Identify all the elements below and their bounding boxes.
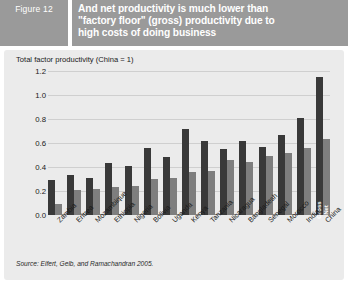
bar-group: [297, 71, 311, 215]
x-label-slot: Bangladesh: [239, 216, 253, 268]
bar-group: [182, 71, 196, 215]
bar-group: [239, 71, 253, 215]
bar-group: [201, 71, 215, 215]
bar-gross: Gross: [316, 77, 323, 215]
bar-net: Net: [323, 139, 330, 215]
figure-title-line-2: "factory floor" (gross) productivity due…: [78, 15, 342, 27]
y-axis-tick-labels: 0.00.20.40.60.81.01.2: [22, 71, 46, 215]
bar-group: [278, 71, 292, 215]
x-label-slot: Tanzania: [201, 216, 215, 268]
y-axis-tick-label: 1.0: [35, 91, 46, 100]
bar-group: [144, 71, 158, 215]
figure-title-box: And net productivity is much lower than …: [72, 0, 348, 46]
bar-group: [67, 71, 81, 215]
chart-panel: Total factor productivity (China = 1) 0.…: [4, 50, 344, 280]
bar-group: GrossNet: [316, 71, 330, 215]
y-axis-tick-label: 0.2: [35, 187, 46, 196]
x-label-slot: Kenya: [182, 216, 196, 268]
figure-number-box: Figure 12: [0, 0, 68, 46]
figure-header: Figure 12 And net productivity is much l…: [0, 0, 348, 46]
figure-container: Figure 12 And net productivity is much l…: [0, 0, 348, 284]
x-label-slot: Uganda: [163, 216, 177, 268]
x-label-slot: India: [297, 216, 311, 268]
y-axis-tick-label: 0.0: [35, 211, 46, 220]
source-note: Source: Eifert, Gelb, and Ramachandran 2…: [16, 260, 153, 267]
plot-area: GrossNet: [48, 71, 330, 215]
figure-number-label: Figure 12: [15, 4, 53, 14]
y-axis-tick-label: 0.8: [35, 115, 46, 124]
y-axis-tick-label: 1.2: [35, 67, 46, 76]
x-label-slot: Nicaragua: [220, 216, 234, 268]
x-label-slot: Morocco: [278, 216, 292, 268]
x-label-slot: Senegal: [259, 216, 273, 268]
bar-group: [48, 71, 62, 215]
y-axis-tick-label: 0.6: [35, 139, 46, 148]
bar-gross: [48, 180, 55, 215]
x-label-slot: China: [316, 216, 330, 268]
bar-group: [86, 71, 100, 215]
bar-group: [220, 71, 234, 215]
y-axis-tick-label: 0.4: [35, 163, 46, 172]
bar-group: [163, 71, 177, 215]
chart-axis-title: Total factor productivity (China = 1): [16, 55, 134, 64]
bar-net: [208, 171, 215, 215]
bar-groups: GrossNet: [48, 71, 330, 215]
figure-title-line-3: high costs of doing business: [78, 27, 342, 39]
figure-title-line-1: And net productivity is much lower than: [78, 3, 342, 15]
